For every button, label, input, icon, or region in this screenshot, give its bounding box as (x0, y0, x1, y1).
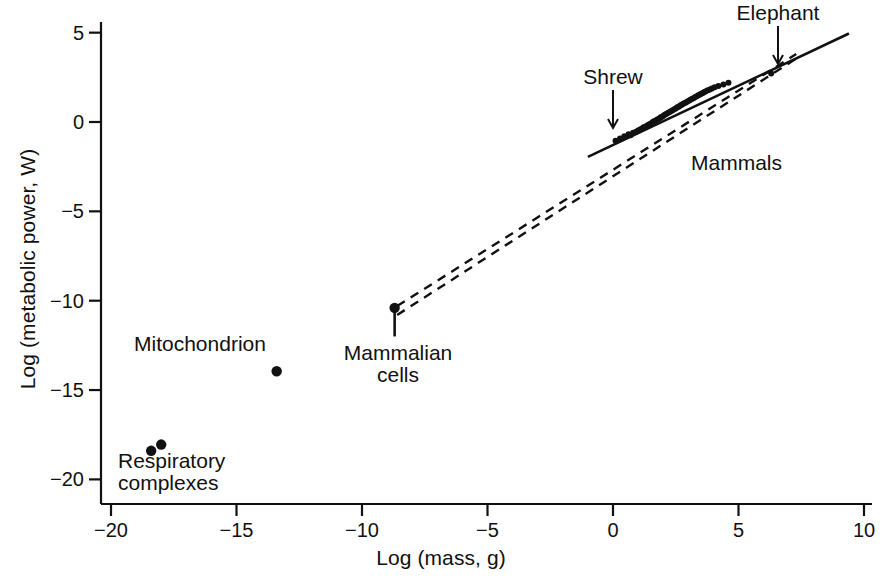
annotation-elephant: Elephant (737, 2, 820, 24)
x-tick-label: −20 (94, 519, 128, 542)
axis-ticks (89, 33, 864, 516)
y-tick-label: −20 (50, 468, 84, 491)
x-tick-label: −5 (476, 519, 499, 542)
y-tick-label: −5 (61, 200, 84, 223)
plot-canvas (0, 0, 882, 586)
y-tick-label: −10 (50, 289, 84, 312)
y-tick-label: 5 (73, 21, 84, 44)
x-tick-label: 5 (733, 519, 744, 542)
x-tick-label: 10 (853, 519, 875, 542)
x-tick-label: −10 (345, 519, 379, 542)
x-tick-label: 0 (607, 519, 618, 542)
x-axis-title: Log (mass, g) (0, 546, 882, 570)
annotation-shrew: Shrew (583, 66, 643, 88)
annotation-mammals: Mammals (691, 152, 782, 174)
annotation-mammalian-cells-line2: cells (377, 364, 419, 386)
annotation-respiratory-complexes-line1: Respiratory (118, 450, 225, 472)
y-tick-label: 0 (73, 111, 84, 134)
data-points (146, 70, 774, 456)
annotation-respiratory-complexes-line2: complexes (118, 472, 218, 494)
annotation-mammalian-cells-line1: Mammalian (344, 342, 453, 364)
x-tick-label: −15 (220, 519, 254, 542)
y-tick-label: −15 (50, 379, 84, 402)
axis-lines (101, 22, 872, 504)
metabolic-scaling-figure: Log (mass, g) Log (metabolic power, W) −… (0, 0, 882, 586)
annotation-mitochondrion: Mitochondrion (134, 333, 266, 355)
y-axis-title: Log (metabolic power, W) (16, 79, 40, 459)
